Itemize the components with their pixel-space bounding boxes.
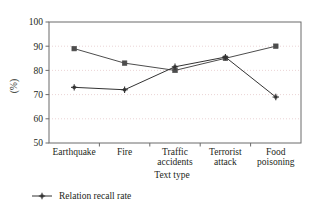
x-category-label-3: attack: [214, 157, 237, 167]
marker-s0-p1: [122, 61, 127, 66]
x-category-label-1: Fire: [117, 147, 132, 157]
y-axis-title: (%): [9, 79, 20, 93]
relation-recall-rate-line-chart: 5060708090100 EarthquakeFireTrafficaccid…: [0, 0, 320, 210]
x-category-label-4: Food: [266, 147, 286, 157]
y-tick-label-100: 100: [29, 17, 44, 27]
chart-canvas: 5060708090100 EarthquakeFireTrafficaccid…: [0, 0, 320, 210]
x-category-label-2: accidents: [157, 157, 193, 167]
x-axis-title: Text type: [154, 170, 189, 180]
x-category-label-2: Traffic: [162, 147, 188, 157]
marker-s0-p0: [72, 46, 77, 51]
legend-label-0: Relation recall rate: [59, 191, 131, 201]
y-tick-label-80: 80: [34, 66, 44, 76]
x-category-label-4: poisoning: [257, 157, 295, 167]
y-tick-label-50: 50: [34, 138, 44, 148]
x-category-label-0: Earthquake: [53, 147, 96, 157]
marker-s0-p4: [274, 44, 279, 49]
y-tick-label-70: 70: [34, 90, 44, 100]
x-category-label-3: Terrorist: [209, 147, 242, 157]
y-tick-label-90: 90: [34, 42, 44, 52]
y-tick-label-60: 60: [34, 114, 44, 124]
